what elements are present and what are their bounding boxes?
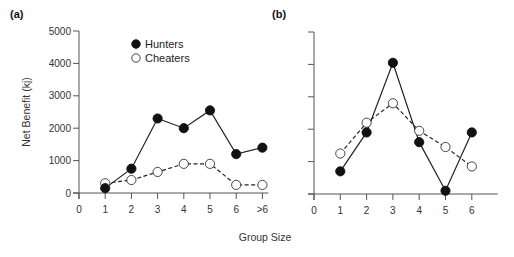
cheaters-point xyxy=(127,175,136,184)
x-tick-label: 2 xyxy=(364,205,370,216)
y-axis-title: Net Benefit (kj) xyxy=(20,77,32,146)
cheaters-point xyxy=(232,180,241,189)
legend-cheaters-marker xyxy=(132,54,140,62)
panel-a-label: (a) xyxy=(10,8,24,20)
x-tick-label: 4 xyxy=(181,204,187,215)
x-tick-label: 6 xyxy=(233,204,239,215)
hunters-point xyxy=(441,186,450,195)
legend-hunters-label: Hunters xyxy=(145,38,184,50)
x-tick-label: 6 xyxy=(469,205,475,216)
cheaters-line xyxy=(340,103,472,166)
cheaters-point xyxy=(415,126,424,135)
x-tick-label: 3 xyxy=(155,204,161,215)
x-tick-label: 4 xyxy=(416,205,422,216)
x-tick-label: 5 xyxy=(443,205,449,216)
cheaters-point xyxy=(388,99,397,108)
hunters-line xyxy=(340,63,472,191)
x-axis-title: Group Size xyxy=(239,231,292,243)
hunters-point xyxy=(258,143,267,152)
panel-b-label: (b) xyxy=(272,8,286,20)
legend-hunters-marker xyxy=(132,40,140,48)
cheaters-point xyxy=(153,167,162,176)
y-tick-label: 3000 xyxy=(49,90,72,101)
y-tick-label: 1000 xyxy=(49,155,72,166)
hunters-point xyxy=(336,167,345,176)
y-tick-label: 5000 xyxy=(49,26,72,37)
hunters-point xyxy=(153,114,162,123)
cheaters-point xyxy=(441,142,450,151)
x-tick-label: 3 xyxy=(390,205,396,216)
hunters-point xyxy=(388,58,397,67)
hunters-point xyxy=(101,184,110,193)
legend-cheaters-label: Cheaters xyxy=(145,52,190,64)
x-tick-label: 1 xyxy=(102,204,108,215)
hunters-point xyxy=(415,138,424,147)
legend: Hunters Cheaters xyxy=(132,38,190,64)
x-tick-label: >6 xyxy=(257,204,269,215)
hunters-point xyxy=(127,164,136,173)
panel-b: 0123456 xyxy=(308,32,498,216)
cheaters-point xyxy=(336,149,345,158)
cheaters-point xyxy=(179,159,188,168)
hunters-point xyxy=(205,106,214,115)
y-tick-label: 4000 xyxy=(49,58,72,69)
cheaters-point xyxy=(205,159,214,168)
cheaters-point xyxy=(258,180,267,189)
hunters-point xyxy=(362,128,371,137)
x-tick-label: 1 xyxy=(338,205,344,216)
cheaters-point xyxy=(467,162,476,171)
hunters-point xyxy=(232,150,241,159)
x-tick-label: 5 xyxy=(207,204,213,215)
x-tick-label: 0 xyxy=(311,205,317,216)
cheaters-point xyxy=(362,118,371,127)
y-tick-label: 2000 xyxy=(49,123,72,134)
hunters-point xyxy=(179,124,188,133)
figure: (a) (b) Net Benefit (kj) Group Size 0100… xyxy=(0,0,514,257)
x-tick-label: 0 xyxy=(76,204,82,215)
x-tick-label: 2 xyxy=(129,204,135,215)
hunters-point xyxy=(467,128,476,137)
y-tick-label: 0 xyxy=(65,188,71,199)
